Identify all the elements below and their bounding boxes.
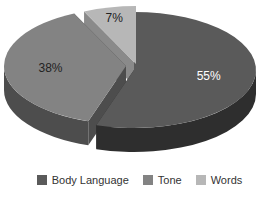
legend-item-words: Words: [196, 174, 243, 186]
pie-chart: 55%38%7%: [0, 0, 279, 165]
legend-label: Words: [211, 174, 243, 186]
legend-item-body-language: Body Language: [37, 174, 129, 186]
legend-item-tone: Tone: [143, 174, 182, 186]
slice-label: 38%: [38, 61, 62, 75]
legend-swatch: [143, 175, 153, 185]
legend-swatch: [196, 175, 206, 185]
legend: Body Language Tone Words: [0, 170, 279, 190]
legend-swatch: [37, 175, 47, 185]
slice-label: 55%: [197, 69, 221, 83]
slice-label: 7%: [106, 11, 124, 25]
legend-label: Tone: [158, 174, 182, 186]
legend-label: Body Language: [52, 174, 129, 186]
